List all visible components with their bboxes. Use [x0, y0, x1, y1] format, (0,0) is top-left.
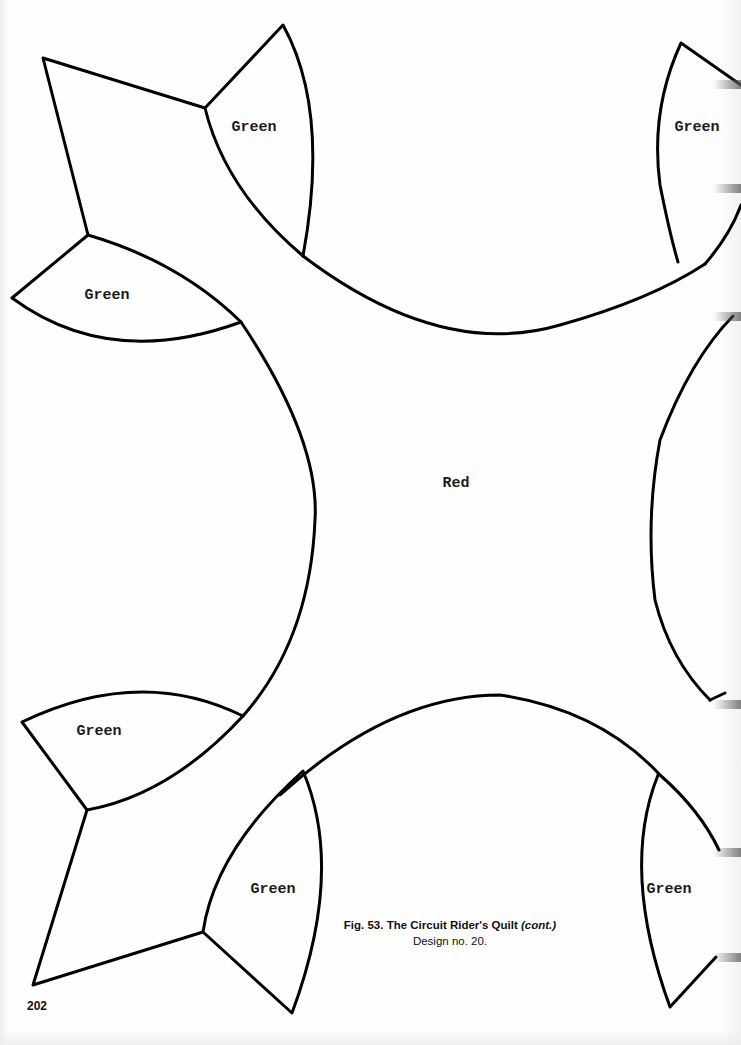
- bottom-arc: [280, 695, 719, 850]
- binding-mark: [713, 848, 741, 857]
- binding-mark: [713, 312, 741, 321]
- binding-mark: [713, 700, 741, 709]
- caption-cont-text: (cont.): [521, 919, 556, 931]
- binding-mark: [713, 953, 741, 962]
- caption-title-text: Fig. 53. The Circuit Rider's Quilt: [344, 919, 518, 931]
- left-arc: [241, 322, 315, 716]
- piece-label-green-left-upper: Green: [84, 287, 129, 304]
- binding-mark: [713, 80, 741, 89]
- piece-label-green-bottom-left: Green: [250, 881, 295, 898]
- page-number: 202: [27, 999, 47, 1013]
- piece-label-green-bottom-right: Green: [646, 881, 691, 898]
- top-left-kite-piece: [43, 58, 205, 235]
- right-arc-notch: [710, 693, 725, 700]
- green-wedge-left-lower: [22, 692, 243, 810]
- bottom-left-kite-piece: [33, 810, 203, 985]
- figure-caption-subtitle: Design no. 20.: [330, 933, 570, 949]
- piece-label-red-center: Red: [442, 475, 469, 492]
- binding-mark: [713, 184, 741, 193]
- piece-label-green-left-lower: Green: [76, 723, 121, 740]
- pattern-page: Red Green Green Green Green Green Green …: [0, 0, 741, 1045]
- figure-caption: Fig. 53. The Circuit Rider's Quilt (cont…: [330, 917, 570, 949]
- quilt-pattern-diagram: [0, 0, 741, 1045]
- right-arc: [651, 316, 733, 700]
- piece-label-green-top-left: Green: [231, 119, 276, 136]
- green-wedge-top-left: [205, 25, 313, 256]
- figure-caption-title: Fig. 53. The Circuit Rider's Quilt (cont…: [330, 917, 570, 933]
- piece-label-green-top-right: Green: [674, 119, 719, 136]
- top-arc-right: [705, 205, 741, 264]
- top-arc: [303, 256, 705, 334]
